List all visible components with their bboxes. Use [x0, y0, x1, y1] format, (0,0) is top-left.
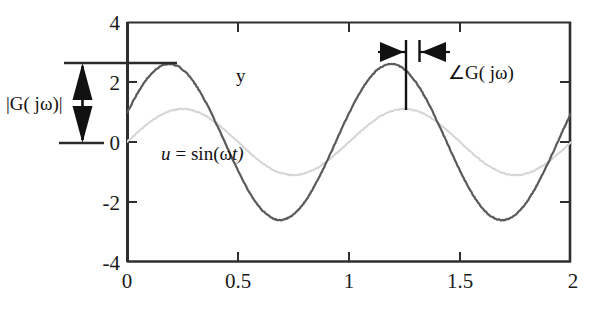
x-tick-label-2: 2 [568, 269, 579, 293]
phase-annotation: ∠G( jω) [378, 40, 514, 110]
label-input-u-t: t) [232, 143, 244, 165]
data-curves [127, 64, 571, 221]
y-tick-label-neg2: -2 [103, 191, 121, 215]
curve-input-u [127, 109, 571, 176]
x-tick-label-15: 1.5 [447, 269, 473, 293]
phase-arrowhead-left [380, 42, 404, 62]
magnitude-label: |G( jω)| [6, 93, 63, 115]
y-tick-label-4: 4 [110, 11, 121, 35]
y-tick-labels: 4 2 0 -2 -4 [103, 11, 121, 275]
magnitude-arrowhead-up [73, 63, 93, 100]
label-input-u-eq: = sin( [176, 143, 220, 165]
label-input-u: u= sin(ωt) [161, 143, 244, 165]
y-tick-label-2: 2 [110, 71, 121, 95]
plot-svg: 4 2 0 -2 -4 0 0.5 1 1.5 2 [0, 0, 599, 315]
x-tick-label-05: 0.5 [225, 269, 251, 293]
phase-angle-text: G( jω) [465, 62, 514, 84]
phase-arrowhead-right [422, 42, 447, 62]
magnitude-arrowhead-down [73, 106, 93, 143]
phase-angle-symbol: ∠ [448, 62, 465, 83]
phase-label: ∠G( jω) [448, 62, 514, 84]
label-input-u-symbol: u [161, 143, 171, 164]
y-tick-label-neg4: -4 [103, 251, 121, 275]
label-output-y: y [236, 65, 246, 86]
label-input-u-omega: ω [219, 143, 232, 164]
x-tick-labels: 0 0.5 1 1.5 2 [122, 269, 579, 293]
y-tick-label-0: 0 [110, 131, 121, 155]
x-tick-label-0: 0 [122, 269, 133, 293]
x-tick-label-1: 1 [344, 269, 355, 293]
frequency-response-figure: 4 2 0 -2 -4 0 0.5 1 1.5 2 [0, 0, 599, 315]
